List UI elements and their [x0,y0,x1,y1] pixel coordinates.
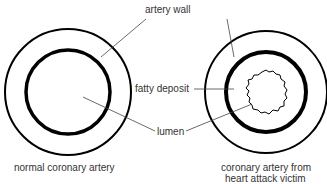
normal-inner-wall [26,50,110,134]
victim-artery [205,31,327,153]
victim-inner-wall [226,52,306,132]
fatty-deposit-lumen-outline [246,70,287,114]
artery-wall-label: artery wall [145,4,191,15]
victim-outer-wall [205,31,327,153]
leader-artery-wall-right [227,19,234,57]
leader-lumen-right [186,104,252,131]
leader-artery-wall-left [101,19,146,57]
leader-lines [83,19,252,131]
victim-artery-caption-line1: coronary artery from [221,162,311,173]
victim-artery-caption-line2: heart attack victim [225,173,306,184]
fatty-deposit-label: fatty deposit [135,83,189,94]
lumen-label: lumen [157,126,184,137]
normal-artery-caption: normal coronary artery [14,162,115,173]
